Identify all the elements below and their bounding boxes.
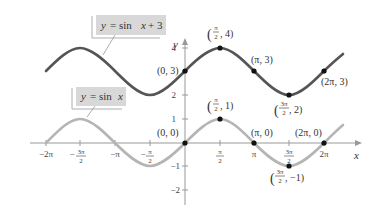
label-point-3pi2-2: ( 3π 2 , 2) — [274, 100, 302, 119]
svg-text:−: − — [140, 149, 145, 159]
svg-text:2: 2 — [214, 105, 218, 113]
svg-text:+ 3: + 3 — [148, 19, 163, 31]
svg-text:= sin: = sin — [110, 19, 132, 31]
svg-text:π: π — [218, 148, 222, 156]
x-tick-2pi: 2π — [319, 149, 329, 159]
svg-text:, 4): , 4) — [220, 28, 233, 40]
svg-text:(: ( — [270, 171, 275, 187]
x-tick-pi: π — [252, 149, 257, 159]
x-axis-arrow-icon — [355, 140, 362, 146]
label-point-2pi-3: (2π, 3) — [321, 76, 348, 88]
svg-text:y: y — [100, 19, 106, 31]
svg-text:(: ( — [207, 27, 212, 43]
label-point-0-3: (0, 3) — [157, 65, 179, 77]
y-tick-2: 2 — [172, 90, 177, 100]
svg-text:3π: 3π — [285, 148, 293, 156]
y-tick-minus-2: −2 — [170, 185, 180, 195]
svg-text:3π: 3π — [77, 148, 85, 156]
x-axis-label: x — [353, 149, 359, 161]
svg-text:, 2): , 2) — [289, 104, 302, 116]
chart-canvas: y x 4 2 1 −1 −2 −2π − 3π 2 −π − π 2 π 2 … — [0, 0, 376, 218]
svg-text:= sin: = sin — [90, 90, 112, 102]
x-tick-minus-pi: −π — [110, 149, 120, 159]
y-axis-arrow-icon — [182, 38, 188, 45]
svg-text:π: π — [214, 24, 218, 32]
svg-text:3π: 3π — [276, 168, 284, 176]
svg-text:, 1): , 1) — [220, 100, 233, 112]
svg-text:, −1): , −1) — [285, 172, 304, 184]
label-point-2pi-0: (2π, 0) — [295, 127, 322, 139]
svg-text:(: ( — [274, 103, 279, 119]
label-point-pi2-4: ( π 2 , 4) — [207, 24, 233, 43]
label-point-pi2-1: ( π 2 , 1) — [207, 96, 233, 115]
svg-text:π: π — [214, 96, 218, 104]
svg-text:x: x — [117, 90, 123, 102]
svg-text:3π: 3π — [280, 100, 288, 108]
legend-shifted: y = sin x + 3 — [92, 15, 166, 38]
svg-text:y: y — [80, 90, 86, 102]
callout-line-base — [87, 106, 95, 117]
svg-text:2: 2 — [214, 33, 218, 41]
svg-text:2: 2 — [278, 177, 282, 185]
label-point-0-0: (0, 0) — [157, 127, 179, 139]
label-point-3pi2-m1: ( 3π 2 , −1) — [270, 168, 304, 187]
y-tick-minus-1: −1 — [170, 161, 180, 171]
legend-base: y = sin x — [72, 87, 126, 109]
svg-text:π: π — [148, 148, 152, 156]
svg-text:2: 2 — [79, 157, 83, 165]
svg-text:2: 2 — [148, 157, 152, 165]
label-point-pi-3: (π, 3) — [251, 54, 273, 66]
x-tick-3pi-2: 3π 2 — [284, 148, 294, 165]
x-tick-minus-3pi-2: − 3π 2 — [69, 148, 86, 165]
axes — [30, 38, 362, 205]
x-tick-minus-pi-2: − π 2 — [140, 148, 154, 165]
svg-text:−: − — [69, 149, 74, 159]
svg-text:2: 2 — [218, 157, 222, 165]
x-tick-pi-2: π 2 — [216, 148, 224, 165]
svg-text:2: 2 — [282, 109, 286, 117]
y-tick-1: 1 — [172, 114, 177, 124]
y-tick-4: 4 — [172, 43, 177, 53]
label-point-pi-0: (π, 0) — [251, 127, 273, 139]
svg-text:x: x — [140, 19, 146, 31]
x-tick-minus-2pi: −2π — [39, 149, 54, 159]
svg-text:(: ( — [207, 99, 212, 115]
